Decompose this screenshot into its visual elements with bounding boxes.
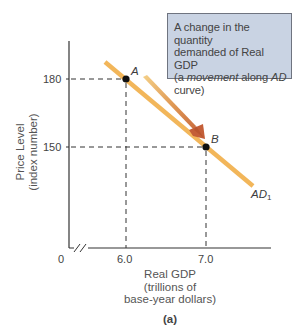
axis-break-icon — [74, 244, 88, 252]
callout-box: A change in the quantity demanded of Rea… — [167, 13, 292, 79]
dashed-guides — [71, 79, 206, 248]
callout-line-1: A change in the quantity — [174, 21, 287, 46]
x-tick-label-7: 7.0 — [198, 253, 213, 265]
x-axis-label-line-2: (trillions of — [110, 281, 230, 294]
ad-curve-label-main: AD — [251, 188, 267, 200]
x-axis-label: Real GDP (trillions of base-year dollars… — [110, 268, 230, 306]
y-tick-label-150: 150 — [43, 141, 61, 153]
y-tick-label-180: 180 — [43, 73, 61, 85]
x-tick-label-0: 0 — [58, 253, 64, 265]
callout-line-4: curve) — [174, 84, 287, 97]
callout-line-3-mid: along — [238, 71, 271, 83]
x-axis-label-line-1: Real GDP — [110, 268, 230, 281]
x-axis-label-line-3: base-year dollars) — [110, 293, 230, 306]
point-b-label: B — [211, 133, 219, 145]
callout-line-3-italic2: AD — [271, 71, 286, 83]
point-a-label: A — [131, 65, 139, 77]
callout-line-3-pre: (a — [174, 71, 187, 83]
x-tick-label-6: 6.0 — [117, 253, 132, 265]
y-axis-label-line-1: Price Level — [14, 102, 27, 202]
callout-line-2: demanded of Real GDP — [174, 46, 287, 71]
ad-curve-label-sub: 1 — [267, 193, 271, 202]
panel-label: (a) — [150, 313, 190, 325]
point-b — [202, 143, 209, 150]
callout-line-3: (a movement along AD — [174, 71, 287, 84]
ad-curve-label: AD1 — [251, 188, 271, 202]
y-axis-label: Price Level (index number) — [14, 102, 40, 202]
point-a — [122, 75, 129, 82]
callout-line-3-italic: movement — [187, 71, 238, 83]
callout-text: A change in the quantity demanded of Rea… — [174, 21, 287, 97]
y-axis-label-line-2: (index number) — [27, 102, 40, 202]
